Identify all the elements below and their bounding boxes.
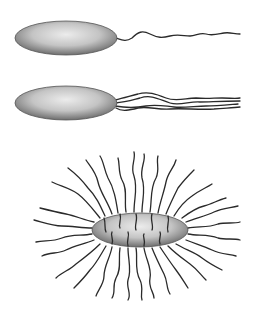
cell-body [92,213,188,247]
cell-body [15,21,117,55]
peritrichous-bacterium [34,152,240,300]
monotrichous-bacterium [15,21,240,55]
flagella-diagram [0,0,258,310]
single-flagellum [116,32,240,40]
cell-body [15,86,117,120]
lophotrichous-bacterium [15,86,240,120]
